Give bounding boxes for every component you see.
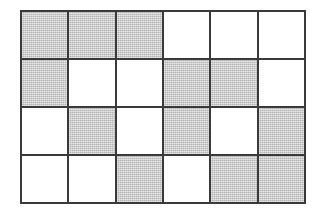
- grid-cell-r4-c5: [211, 156, 256, 202]
- grid-cell-r4-c1: [22, 156, 67, 202]
- grid-cell-r1-c2: [69, 12, 114, 58]
- grid-cell-r2-c1: [22, 60, 67, 106]
- grid-cell-r2-c6: [259, 60, 304, 106]
- grid-cell-r1-c5: [211, 12, 256, 58]
- shaded-grid: [20, 10, 306, 204]
- figure-canvas: [0, 0, 319, 210]
- grid-cell-r3-c6: [259, 108, 304, 154]
- grid-cell-r2-c5: [211, 60, 256, 106]
- grid-cell-r3-c2: [69, 108, 114, 154]
- grid-cell-r4-c3: [117, 156, 162, 202]
- grid-cell-r4-c2: [69, 156, 114, 202]
- grid-cell-r1-c1: [22, 12, 67, 58]
- grid-cell-r3-c5: [211, 108, 256, 154]
- grid-cell-r3-c3: [117, 108, 162, 154]
- grid-cell-r2-c2: [69, 60, 114, 106]
- grid-cell-r4-c4: [164, 156, 209, 202]
- grid-cell-r1-c6: [259, 12, 304, 58]
- grid-cell-r1-c3: [117, 12, 162, 58]
- grid-cell-r4-c6: [259, 156, 304, 202]
- grid-cell-r3-c4: [164, 108, 209, 154]
- grid-cell-r2-c4: [164, 60, 209, 106]
- grid-cell-r1-c4: [164, 12, 209, 58]
- grid-cell-r3-c1: [22, 108, 67, 154]
- grid-cell-r2-c3: [117, 60, 162, 106]
